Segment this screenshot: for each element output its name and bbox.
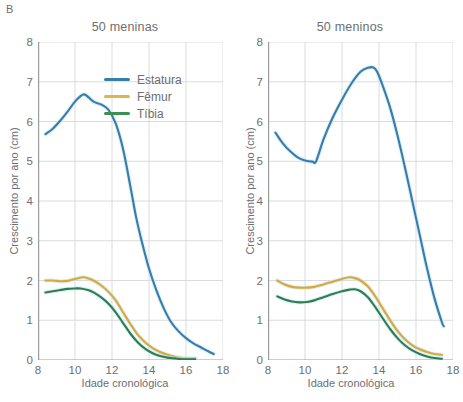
legend-item-tibia: Tíbia [104,106,182,121]
x-axis-label-right: Idade cronológica [231,377,463,389]
y-tick-label: 3 [257,235,263,247]
chart-title-right: 50 meninos [231,20,463,34]
chart-panel-meninos: 50 meninos Crescimento por ano (cm) Idad… [231,0,463,402]
y-tick-label: 7 [27,76,33,88]
series-line-estatura [45,94,213,354]
y-tick-label: 5 [257,155,263,167]
y-tick-label: 1 [27,314,33,326]
x-tick-label: 12 [106,364,119,376]
y-tick-label: 2 [27,274,33,286]
x-tick-label: 16 [410,364,423,376]
legend-label: Fêmur [137,91,172,103]
y-tick-label: 4 [257,195,263,207]
y-tick-label: 8 [27,36,33,48]
plot-area-right: 01234567881012141618 [268,42,453,360]
x-tick-label: 10 [69,364,82,376]
chart-svg [268,42,453,360]
line-swatch-icon [104,112,130,115]
y-tick-label: 3 [27,235,33,247]
y-tick-label: 5 [27,155,33,167]
y-tick-label: 0 [27,354,33,366]
y-tick-label: 0 [257,354,263,366]
y-tick-label: 1 [257,314,263,326]
legend-label: Estatura [137,74,182,86]
chart-title-left: 50 meninas [0,20,232,34]
series-halo [45,94,213,354]
x-tick-label: 10 [299,364,312,376]
y-tick-label: 8 [257,36,263,48]
legend-label: Tíbia [137,108,164,120]
gridlines [268,42,453,360]
legend-item-estatura: Estatura [104,72,182,87]
legend: EstaturaFêmurTíbia [104,72,182,123]
x-tick-label: 8 [35,364,41,376]
line-swatch-icon [104,95,130,98]
y-tick-label: 2 [257,274,263,286]
x-tick-label: 8 [265,364,271,376]
legend-item-femur: Fêmur [104,89,182,104]
chart-panel-meninas: 50 meninas Crescimento por ano (cm) Idad… [0,0,232,402]
x-tick-label: 18 [447,364,460,376]
y-tick-label: 4 [27,195,33,207]
x-tick-label: 12 [336,364,349,376]
y-tick-label: 7 [257,76,263,88]
y-tick-label: 6 [27,115,33,127]
y-tick-label: 6 [257,115,263,127]
x-tick-label: 18 [217,364,230,376]
y-axis-label-left: Crescimento por ano (cm) [8,111,20,271]
x-axis-label-left: Idade cronológica [0,377,232,389]
line-swatch-icon [104,78,130,81]
x-tick-label: 14 [143,364,156,376]
y-axis-label-right: Crescimento por ano (cm) [244,111,256,271]
x-tick-label: 16 [180,364,193,376]
x-tick-label: 14 [373,364,386,376]
